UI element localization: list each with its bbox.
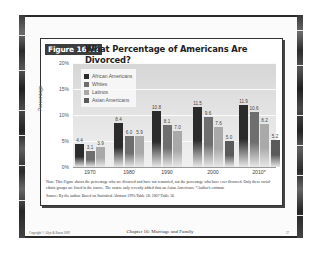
bar [225,141,234,167]
bar [260,124,269,167]
bar [239,105,248,167]
y-axis-label: Percentage [37,85,43,111]
bar-value-label: 3.9 [93,141,109,146]
bar-value-label: 4.4 [72,138,88,143]
y-tick-label: 5% [47,138,69,144]
bar-value-label: 5.2 [267,134,283,139]
legend-swatch [84,90,89,95]
figure-box: Figure 16.12 What Percentage of American… [40,38,283,206]
y-tick-label: 20% [47,60,69,66]
bar-value-label: 8.4 [111,117,127,122]
note-text: Note: This Figure shows the percentage w… [46,179,278,191]
legend-item: Whites [84,80,133,88]
legend-label: Asian Americans [92,97,129,103]
x-tick-label: 2000 [198,169,228,175]
bar-value-label: 11.5 [190,101,206,106]
bar-value-label: 11.9 [236,99,252,104]
bar [86,151,95,167]
bar [173,131,182,167]
bar [163,125,172,167]
x-tick-label: 1980 [114,169,144,175]
bar-value-label: 8.1 [159,119,175,124]
y-tick-label: 0% [47,164,69,170]
x-tick-label: 1970 [75,169,105,175]
y-tick-label: 10% [47,112,69,118]
bar [193,107,202,167]
source-text: Source: By the author. Based on Statisti… [46,193,278,199]
legend-swatch [84,74,89,79]
film-strip-right [297,15,303,238]
figure-notes: Note: This Figure shows the percentage w… [46,179,278,199]
chart-plot-area: Percentage African AmericansWhitesLatino… [73,63,276,168]
bar-value-label: 10.6 [246,106,262,111]
x-tick-label: 2010* [244,169,274,175]
bar-value-label: 10.8 [149,105,165,110]
bar-value-label: 9.6 [200,111,216,116]
legend-label: African Americans [92,73,132,79]
legend-swatch [84,82,89,87]
bar [125,136,134,167]
footer-page-number: 37 [286,231,289,235]
x-tick-label: 1990 [152,169,182,175]
legend-item: African Americans [84,72,133,80]
bar-value-label: 5.0 [221,135,237,140]
y-tick-label: 15% [47,86,69,92]
footer-chapter: Chapter 16: Marriage and Family [100,229,220,234]
bar [135,136,144,167]
footer-copyright: Copyright © Allyn & Bacon 2009 [29,231,70,235]
bar-value-label: 7.0 [170,125,186,130]
chart-legend: African AmericansWhitesLatinosAsian Amer… [81,69,136,107]
legend-item: Asian Americans [84,96,133,104]
bar-value-label: 8.2 [257,118,273,123]
film-strip-left [19,15,25,238]
legend-swatch [84,98,89,103]
bar-value-label: 5.9 [132,130,148,135]
legend-label: Whites [92,81,107,87]
bar [271,140,280,167]
gridline [73,63,276,64]
bar [214,127,223,167]
gridline [73,89,276,90]
bar-value-label: 7.6 [211,121,227,126]
bar [96,147,105,167]
